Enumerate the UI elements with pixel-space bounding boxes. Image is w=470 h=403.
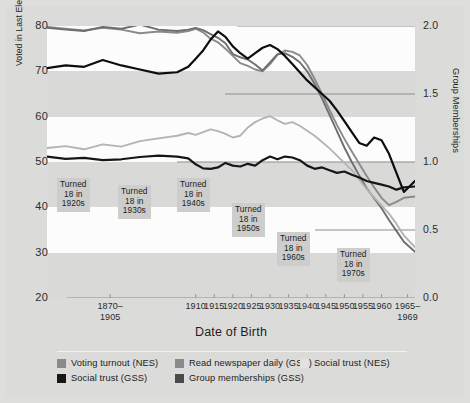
y-axis-title: Voted in Last Election / Read Newspaper … [14, 0, 30, 66]
cohort-annotation-line: 1940s [180, 199, 207, 209]
x-tick-label: 1965–1969 [388, 301, 428, 323]
cohort-annotation: Turned18 in1960s [277, 232, 310, 266]
legend-label: Voting turnout (NES) [71, 358, 158, 368]
secondary-y-axis-title-wrap: Group Memberships [447, 68, 461, 218]
cohort-annotation-line: 1930s [121, 206, 148, 216]
cohort-annotation: Turned18 in1970s [337, 248, 370, 282]
cohort-annotation-line: 1960s [280, 253, 307, 263]
legend-swatch [57, 359, 66, 368]
x-tick-label: 1870–1905 [90, 301, 130, 323]
y-tick-label: 30 [22, 246, 48, 258]
y-tick-label: 60 [22, 110, 48, 122]
legend-swatch [175, 374, 184, 383]
cohort-annotation: Turned18 in1930s [118, 185, 151, 219]
cohort-annotation-line: 1920s [60, 199, 87, 209]
y-tick-label: 50 [22, 155, 48, 167]
legend-swatch [175, 359, 184, 368]
legend-label: Social trust (NES) [314, 358, 390, 368]
legend-label: Group memberships (GSS) [189, 373, 304, 383]
legend-swatch [57, 374, 66, 383]
y-tick-label: 70 [22, 64, 48, 76]
legend-item: Voting turnout (NES) [57, 358, 158, 368]
cohort-annotation: Turned18 in1950s [232, 203, 265, 237]
legend-swatch [300, 359, 309, 368]
y-axis-title-wrap: Voted in Last Election / Read Newspaper … [8, 24, 24, 300]
x-axis-title: Date of Birth [47, 325, 415, 339]
chart-legend: Voting turnout (NES)Read newspaper daily… [57, 358, 457, 390]
legend-item: Social trust (NES) [300, 358, 390, 368]
cohort-annotation-line: 1970s [340, 269, 367, 279]
chart-figure: 20304050607080 0.00.51.01.52.0 1870–1905… [0, 0, 470, 403]
y-tick-label: 40 [22, 200, 48, 212]
cohort-annotation-line: 1950s [235, 224, 262, 234]
legend-item: Group memberships (GSS) [175, 373, 304, 383]
secondary-y-axis-title: Group Memberships [447, 68, 461, 218]
legend-item: Social trust (GSS) [57, 373, 147, 383]
legend-label: Social trust (GSS) [71, 373, 147, 383]
secondary-y-tick-label: 0.5 [423, 223, 453, 235]
y-tick-label: 20 [22, 291, 48, 303]
legend-divider [57, 351, 407, 352]
legend-label: Read newspaper daily (GSS) [189, 358, 312, 368]
secondary-y-tick-label: 2.0 [423, 19, 453, 31]
cohort-annotation: Turned18 in1940s [177, 178, 210, 212]
cohort-annotation: Turned18 in1920s [57, 178, 90, 212]
legend-item: Read newspaper daily (GSS) [175, 358, 312, 368]
